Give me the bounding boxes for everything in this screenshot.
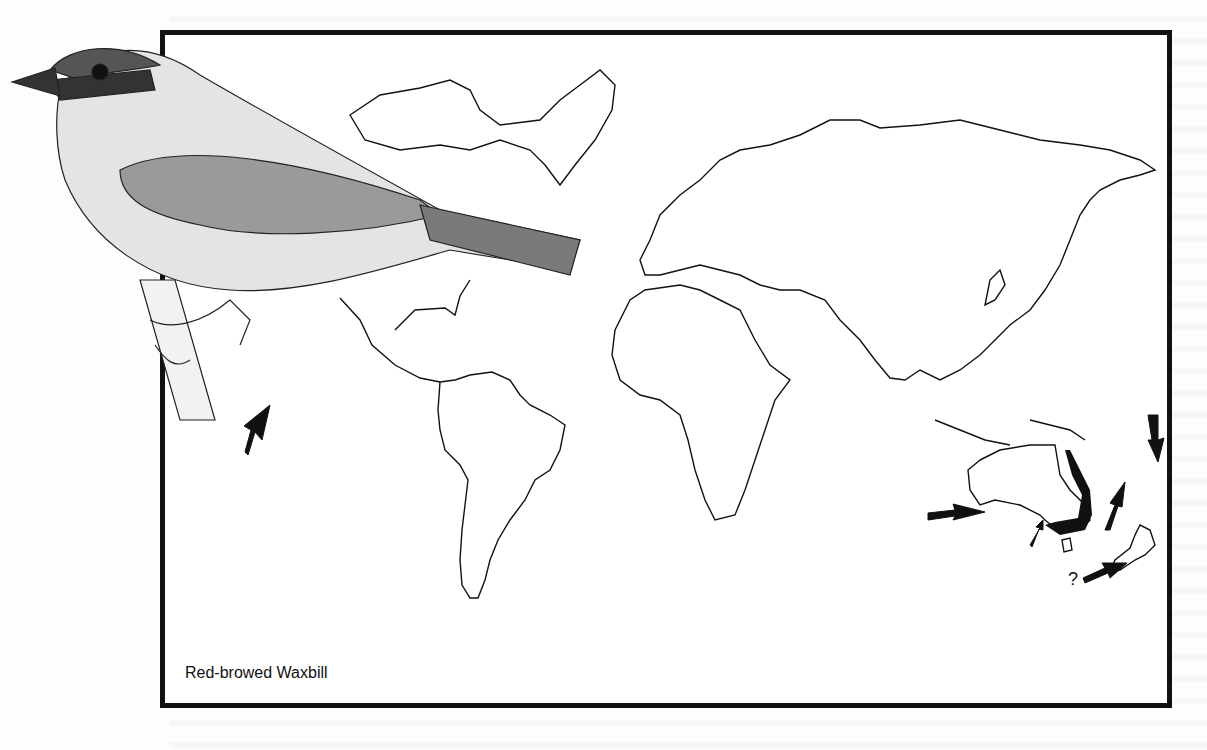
bird-illustration [0,30,600,430]
uncertain-marker: ? [1068,569,1078,589]
arrow-icon-new-zealand [1083,563,1127,583]
africa-outline [612,285,790,520]
bird-tail [420,205,580,275]
tasmania-outline [1062,538,1072,552]
figure-caption: Red-browed Waxbill [185,664,328,682]
japan-outline [985,270,1005,305]
arrow-icon-adelaide [1030,520,1043,547]
native-range-band [1045,450,1092,535]
arrow-icon-new-caledonia [1105,482,1125,530]
arrow-icon-pacific-island [1148,415,1164,462]
bird-eye [92,64,108,80]
bird-beak [12,68,60,96]
arrow-icon-western-australia [928,504,985,520]
indonesia-outline [935,420,1085,445]
perch-stem [140,280,215,420]
eurasia-outline [640,120,1155,380]
